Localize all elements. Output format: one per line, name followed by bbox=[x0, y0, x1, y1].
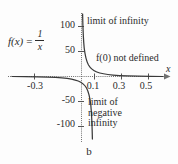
y-tick-label-100: 100 bbox=[45, 20, 75, 31]
annotation-f0-not-defined: f(0) not defined bbox=[96, 53, 159, 64]
fraction-one-over-x: 1 x bbox=[35, 29, 44, 52]
y-tick-label-50: 50 bbox=[45, 45, 75, 56]
y-tick-label-neg100: -100 bbox=[45, 119, 75, 130]
x-tick-label-neg03: -0.3 bbox=[22, 81, 48, 92]
figure-caption: b bbox=[0, 146, 178, 158]
annotation-bottom-line-3: infinity bbox=[88, 118, 122, 129]
x-axis-label: x bbox=[166, 64, 170, 75]
y-tick-label-neg50: -50 bbox=[45, 95, 75, 106]
annotation-limit-of-infinity: limit of infinity bbox=[87, 16, 149, 27]
function-label: f(x) = 1 x bbox=[8, 30, 44, 53]
annotation-limit-of-negative-infinity: limit of negative infinity bbox=[88, 97, 122, 129]
fraction-denominator: x bbox=[36, 42, 44, 52]
annotation-bottom-line-1: limit of bbox=[88, 97, 122, 108]
function-lhs: f(x) bbox=[8, 36, 23, 48]
figure-container: f(x) = 1 x 100 50 -50 -100 -0.3 0.1 0.3 … bbox=[0, 0, 178, 164]
fraction-numerator: 1 bbox=[35, 29, 44, 39]
function-equals: = bbox=[26, 36, 32, 48]
x-tick-label-01: 0.1 bbox=[80, 81, 106, 92]
x-tick-label-03: 0.3 bbox=[106, 81, 132, 92]
x-tick-label-05: 0.5 bbox=[133, 81, 159, 92]
